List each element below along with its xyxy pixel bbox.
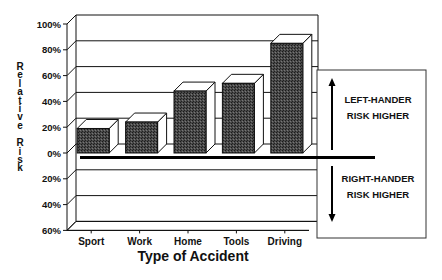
y-axis-title: RelativeRisk	[16, 61, 24, 173]
y-tick-label: 60%	[42, 225, 62, 236]
annotation-left-hander-line2: RISK HIGHER	[347, 110, 409, 121]
x-axis: SportWorkHomeToolsDrivingType of Acciden…	[67, 230, 309, 264]
x-tick-label: Driving	[268, 236, 302, 247]
bars	[77, 34, 312, 153]
y-tick-label: 100%	[37, 19, 62, 30]
annotation-box: LEFT-HANDERRISK HIGHERRIGHT-HANDERRISK H…	[300, 70, 426, 238]
bar-home	[174, 82, 215, 153]
y-tick-label: 20%	[42, 122, 62, 133]
bar-driving	[271, 34, 312, 153]
y-tick-label: 60%	[42, 70, 62, 81]
x-tick-label: Work	[127, 236, 152, 247]
svg-text:k: k	[17, 162, 23, 173]
y-tick-label: 80%	[42, 44, 62, 55]
y-tick-label: 0%	[47, 148, 61, 159]
bar-tools	[222, 74, 263, 153]
x-tick-label: Home	[174, 236, 202, 247]
y-axis: 100%80%60%40%20%0%20%40%60%	[37, 19, 67, 236]
annotation-left-hander-line1: LEFT-HANDER	[344, 94, 411, 105]
bar-work	[126, 113, 167, 153]
annotation-right-hander-line1: RIGHT-HANDER	[342, 173, 415, 184]
x-tick-label: Tools	[223, 236, 249, 247]
annotation-right-hander-line2: RISK HIGHER	[347, 189, 409, 200]
y-tick-label: 40%	[42, 199, 62, 210]
bar-chart: 100%80%60%40%20%0%20%40%60% LEFT-HANDERR…	[0, 0, 442, 280]
y-tick-label: 20%	[42, 173, 62, 184]
svg-text:e: e	[17, 120, 23, 131]
x-axis-title: Type of Accident	[137, 248, 249, 264]
x-tick-label: Sport	[78, 236, 105, 247]
bar-sport	[77, 119, 118, 153]
y-tick-label: 40%	[42, 96, 62, 107]
